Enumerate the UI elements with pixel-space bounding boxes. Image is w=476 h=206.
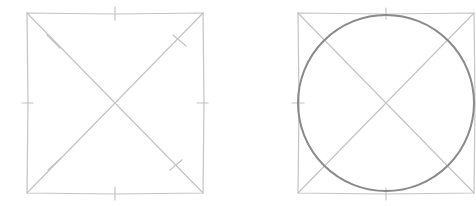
tick-mark <box>48 158 61 170</box>
figure-left-square-diagonals <box>22 7 208 200</box>
figure-right-square-circle <box>292 8 475 200</box>
sketch-canvas <box>0 0 476 206</box>
tick-mark <box>47 35 60 48</box>
